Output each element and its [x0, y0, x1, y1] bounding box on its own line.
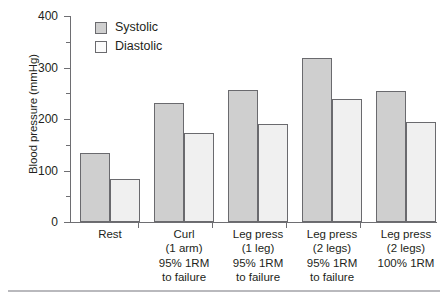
- bar-chart-figure: Blood pressure (mmHg) 400 300 200 100 0: [0, 0, 448, 299]
- y-tick-label-300: 300: [18, 62, 58, 74]
- bar-diastolic-legpress-1leg: [258, 124, 288, 222]
- bar-systolic-legpress-2legs-95: [302, 58, 332, 222]
- y-tick-400: [64, 16, 70, 17]
- bar-diastolic-rest: [110, 179, 140, 222]
- legend-swatch-diastolic-icon: [95, 41, 107, 53]
- x-label-line: 100% 1RM: [344, 256, 448, 270]
- bar-systolic-legpress-1leg: [228, 90, 258, 222]
- y-tick-0: [64, 222, 70, 223]
- y-axis-line: [70, 16, 71, 223]
- y-minor-tick-350: [66, 42, 70, 43]
- bottom-divider-rule: [8, 290, 440, 292]
- y-tick-label-100: 100: [18, 165, 58, 177]
- y-tick-200: [64, 119, 70, 120]
- y-tick-300: [64, 68, 70, 69]
- y-tick-100: [64, 171, 70, 172]
- bar-diastolic-legpress-2legs-95: [332, 99, 362, 222]
- bar-systolic-rest: [80, 153, 110, 222]
- y-tick-label-200: 200: [18, 113, 58, 125]
- legend-item-systolic: Systolic: [95, 18, 162, 37]
- y-minor-tick-250: [66, 93, 70, 94]
- x-label-legpress-2legs-100: Leg press(2 legs)100% 1RM: [344, 227, 448, 270]
- bar-systolic-legpress-2legs-100: [376, 91, 406, 222]
- x-label-line: Leg press: [344, 227, 448, 241]
- legend-label-systolic: Systolic: [115, 21, 158, 34]
- y-minor-tick-150: [66, 145, 70, 146]
- bar-diastolic-curl: [184, 133, 214, 222]
- y-tick-label-400: 400: [18, 10, 58, 22]
- x-axis-labels: Rest Curl(1 arm)95% 1RMto failure Leg pr…: [70, 227, 437, 289]
- x-axis-line: [70, 222, 437, 223]
- bar-systolic-curl: [154, 103, 184, 222]
- legend-swatch-systolic-icon: [95, 22, 107, 34]
- chart-legend: Systolic Diastolic: [95, 18, 162, 56]
- legend-item-diastolic: Diastolic: [95, 37, 162, 56]
- legend-label-diastolic: Diastolic: [115, 40, 162, 53]
- x-label-line: to failure: [270, 270, 394, 284]
- y-minor-tick-50: [66, 196, 70, 197]
- bar-diastolic-legpress-2legs-100: [406, 122, 436, 222]
- x-label-line: (2 legs): [344, 241, 448, 255]
